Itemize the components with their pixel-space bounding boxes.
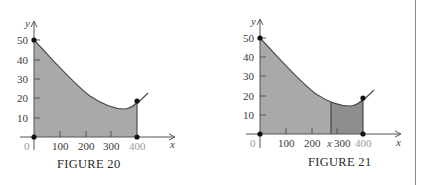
y-tick-10: 10 — [17, 112, 29, 124]
x-tick-100: 100 — [278, 137, 295, 149]
x-tick-0: 0 — [24, 140, 30, 152]
x-tick-0: 0 — [250, 137, 256, 149]
figure-21: y 50 40 30 20 10 0 100 200 x 300 400 x F… — [226, 0, 414, 185]
y-axis-label: y — [250, 15, 256, 27]
shaded-area — [34, 40, 137, 137]
y-tick-20: 20 — [243, 90, 255, 102]
x-tick-300: 300 — [334, 137, 351, 149]
figure-20-caption: FIGURE 20 — [57, 157, 120, 172]
x-divider-label: x — [326, 137, 332, 149]
y-tick-30: 30 — [243, 70, 255, 82]
y-tick-50: 50 — [243, 32, 255, 44]
y-tick-10: 10 — [243, 109, 255, 121]
figure-20: y 50 40 30 20 10 0 100 200 300 400 x FIG… — [0, 0, 200, 185]
figure-21-caption: FIGURE 21 — [308, 155, 371, 170]
x-tick-200: 200 — [78, 140, 95, 152]
x-tick-400: 400 — [355, 137, 372, 149]
y-tick-40: 40 — [243, 51, 255, 63]
x-tick-200: 200 — [304, 137, 321, 149]
x-axis-label: x — [169, 138, 175, 150]
y-tick-20: 20 — [17, 92, 29, 104]
x-axis-label: x — [395, 136, 401, 148]
x-tick-300: 300 — [103, 140, 120, 152]
page-margin-rule — [415, 0, 416, 185]
x-tick-400: 400 — [129, 140, 146, 152]
shaded-area-left — [260, 38, 331, 134]
y-tick-40: 40 — [17, 54, 29, 66]
y-tick-50: 50 — [17, 34, 29, 46]
y-axis-label: y — [24, 17, 30, 29]
y-tick-30: 30 — [17, 73, 29, 85]
x-tick-100: 100 — [52, 140, 69, 152]
